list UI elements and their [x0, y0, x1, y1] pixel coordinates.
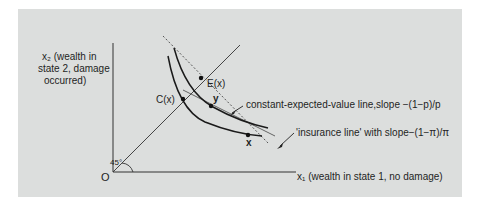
point-E — [199, 76, 203, 80]
y-axis-label-line3: occurred) — [44, 75, 86, 86]
arrowhead-icon — [277, 143, 283, 149]
y-axis-label-line2: state 2, damage — [38, 63, 110, 74]
x-axis-label: x₁ (wealth in state 1, no damage) — [297, 171, 443, 182]
point-y — [209, 104, 213, 108]
insurance-line-annotation: 'insurance line' with slope−(1−π)/π — [296, 127, 449, 138]
point-C — [181, 97, 185, 101]
constant-expected-value-line — [163, 36, 268, 143]
angle-arc — [122, 163, 133, 172]
point-x-label: x — [246, 137, 252, 148]
angle-label: 45° — [110, 158, 122, 167]
point-E-label: E(x) — [207, 78, 225, 89]
origin-label: O — [101, 171, 110, 183]
certainty-line-45deg — [113, 45, 240, 172]
constant-ev-annotation: constant-expected-value line,slope −(1−p… — [246, 99, 441, 110]
insurance-diagram: x₂ (wealth in state 2, damage occurred) … — [0, 0, 480, 209]
insurance-line — [183, 90, 275, 136]
y-axis-label-line1: x₂ (wealth in — [42, 51, 96, 62]
arrow-constant-ev — [232, 106, 243, 113]
point-C-label: C(x) — [156, 94, 175, 105]
point-y-label: y — [213, 93, 219, 104]
